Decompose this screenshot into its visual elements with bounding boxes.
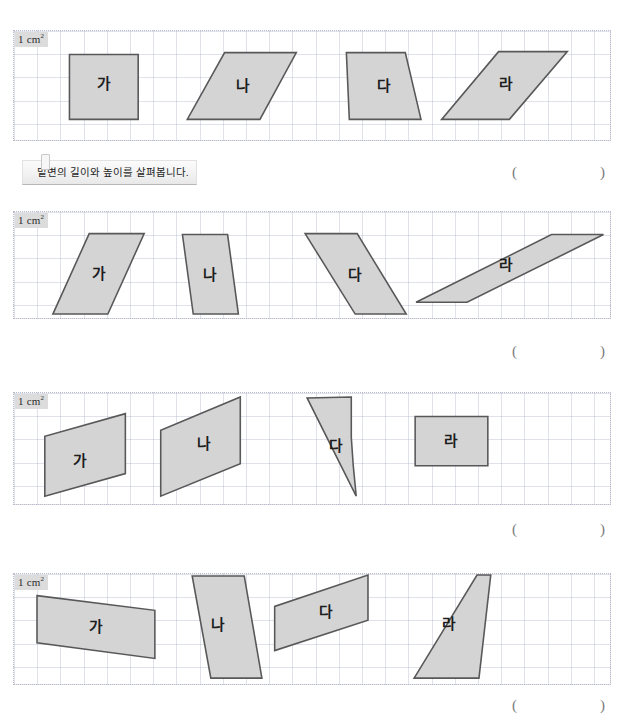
- shape-label-다: 다: [377, 78, 391, 94]
- shape-label-가: 가: [73, 453, 87, 469]
- paren-close-icon: ): [600, 522, 605, 537]
- shape-label-다: 다: [348, 267, 362, 283]
- unit-area-value: 1 cm: [18, 214, 41, 226]
- unit-area-value: 1 cm: [18, 33, 41, 45]
- paren-open-icon: (: [512, 165, 517, 180]
- shape-group-1: 가나다라: [14, 31, 610, 140]
- grid-panel-2: 1 cm2 가나다라: [13, 211, 611, 319]
- paperclip-icon: [41, 154, 50, 170]
- paren-open-icon: (: [512, 698, 517, 713]
- shape-label-나: 나: [236, 78, 250, 94]
- unit-area-value: 1 cm: [18, 395, 41, 407]
- unit-area-label: 1 cm2: [15, 213, 48, 228]
- grid-panel-1: 1 cm2 가나다라: [13, 30, 611, 141]
- paren-close-icon: ): [600, 165, 605, 180]
- shape-label-라: 라: [442, 616, 456, 632]
- unit-area-label: 1 cm2: [15, 32, 48, 47]
- shape-label-가: 가: [92, 266, 106, 282]
- paren-close-icon: ): [600, 698, 605, 713]
- shape-label-라: 라: [499, 257, 513, 273]
- instruction-text: 밑변의 길이와 높이를 살펴봅니다.: [37, 166, 189, 178]
- unit-area-label: 1 cm2: [15, 394, 48, 409]
- unit-area-exponent: 2: [41, 394, 45, 402]
- unit-area-value: 1 cm: [18, 576, 41, 588]
- paren-close-icon: ): [600, 344, 605, 359]
- grid-panel-4: 1 cm2 가나다라: [13, 573, 611, 685]
- unit-area-exponent: 2: [41, 213, 45, 221]
- shape-group-3: 가나다라: [14, 393, 610, 504]
- shape-label-다: 다: [329, 438, 343, 454]
- shape-label-나: 나: [211, 617, 225, 633]
- paren-open-icon: (: [512, 522, 517, 537]
- grid-panel-3: 1 cm2 가나다라: [13, 392, 611, 505]
- shape-group-4: 가나다라: [14, 574, 610, 684]
- paren-open-icon: (: [512, 344, 517, 359]
- shape-label-라: 라: [499, 76, 513, 92]
- shape-label-다: 다: [319, 604, 333, 620]
- unit-area-label: 1 cm2: [15, 575, 48, 590]
- shape-label-나: 나: [203, 267, 217, 283]
- worksheet-page: 1 cm2 가나다라 밑변의 길이와 높이를 살펴봅니다. ( ) 1 cm2 …: [0, 0, 631, 724]
- shape-나: [192, 576, 262, 678]
- unit-area-exponent: 2: [41, 32, 45, 40]
- shape-label-가: 가: [97, 76, 111, 92]
- shape-label-가: 가: [89, 619, 103, 635]
- shape-label-나: 나: [197, 436, 211, 452]
- shape-label-라: 라: [444, 433, 458, 449]
- instruction-callout: 밑변의 길이와 높이를 살펴봅니다.: [22, 160, 197, 185]
- shape-group-2: 가나다라: [14, 212, 610, 318]
- unit-area-exponent: 2: [41, 575, 45, 583]
